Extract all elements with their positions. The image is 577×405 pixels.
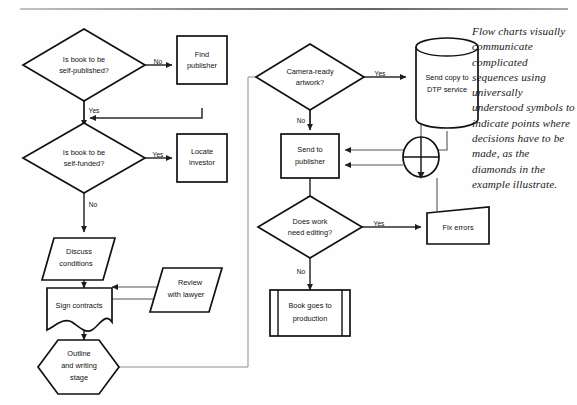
node-send-copy-dtp[interactable]: Send copy to DTP service <box>416 38 478 128</box>
node-label: Locate <box>191 147 213 156</box>
node-camera-ready-artwork[interactable]: Camera-ready artwork? <box>256 44 364 110</box>
caption-text: Flow charts visually communicate complic… <box>472 24 576 192</box>
edge-label-no-selffunded: No <box>89 201 98 208</box>
node-label: Send copy to <box>425 73 468 82</box>
node-label: stage <box>70 373 88 382</box>
node-label: Fix errors <box>442 223 474 232</box>
node-label: DTP service <box>427 85 467 94</box>
edge-label-yes-selffunded: Yes <box>153 151 164 158</box>
node-outline-writing-stage[interactable]: Outline and writing stage <box>38 340 119 394</box>
node-label: Sign contracts <box>56 301 103 310</box>
node-is-self-published[interactable]: Is book to be self-published? <box>23 29 145 101</box>
node-is-self-funded[interactable]: Is book to be self-funded? <box>23 123 145 193</box>
node-label: production <box>293 314 328 323</box>
node-book-goes-to-production[interactable]: Book goes to production <box>270 290 350 336</box>
node-label: Is book to be <box>63 148 105 157</box>
node-label: Review <box>178 278 203 287</box>
node-label: conditions <box>59 259 93 268</box>
node-label: Book goes to <box>288 301 331 310</box>
edge-findpub-to-selffund <box>90 108 202 118</box>
node-label: self-published? <box>59 66 109 75</box>
node-summing-junction[interactable] <box>403 137 439 179</box>
node-label: artwork? <box>296 78 324 87</box>
edge-label-no-cameraready: No <box>297 117 306 124</box>
edge-label-no-editing: No <box>297 268 306 275</box>
node-label: investor <box>189 158 215 167</box>
node-label: with lawyer <box>167 290 205 299</box>
edge-label-yes-selfpublished: Yes <box>89 107 100 114</box>
node-does-work-need-editing[interactable]: Does work need editing? <box>258 196 362 258</box>
node-label: Is book to be <box>63 55 105 64</box>
node-label: Send to <box>297 145 322 154</box>
node-find-publisher[interactable]: Find publisher <box>177 36 227 84</box>
node-label: Camera-ready <box>286 67 334 76</box>
node-label: need editing? <box>288 228 332 237</box>
node-review-with-lawyer[interactable]: Review with lawyer <box>150 268 222 312</box>
node-fix-errors[interactable]: Fix errors <box>427 207 489 244</box>
node-label: Find <box>195 50 209 59</box>
edge-label-yes-cameraready: Yes <box>375 70 386 77</box>
node-label: Discuss <box>66 247 92 256</box>
node-label: Outline <box>67 349 90 358</box>
node-label: publisher <box>187 61 218 70</box>
edge-label-no-selfpublished: No <box>154 58 163 65</box>
node-discuss-conditions[interactable]: Discuss conditions <box>42 238 115 280</box>
edge-label-yes-editing: Yes <box>374 220 385 227</box>
node-label: self-funded? <box>64 159 105 168</box>
node-label: Does work <box>293 217 328 226</box>
node-send-to-publisher[interactable]: Send to publisher <box>281 134 339 178</box>
flowchart-page: Is book to be self-published? Find publi… <box>0 0 577 405</box>
node-sign-contracts[interactable]: Sign contracts <box>47 288 112 331</box>
node-label: and writing <box>61 361 97 370</box>
node-locate-investor[interactable]: Locate investor <box>177 134 227 182</box>
node-label: publisher <box>295 157 326 166</box>
